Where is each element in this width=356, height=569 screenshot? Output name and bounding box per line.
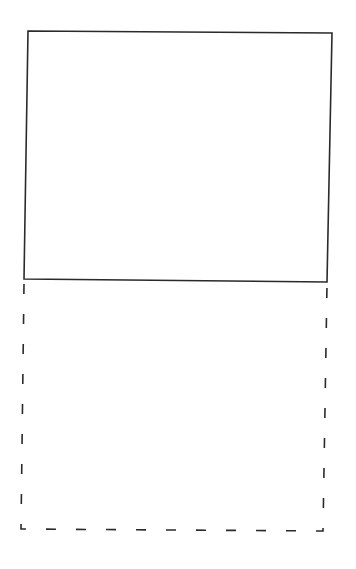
- solid-rectangle: [24, 31, 332, 282]
- diagram-canvas: [0, 0, 356, 569]
- dashed-rectangle: [21, 284, 327, 531]
